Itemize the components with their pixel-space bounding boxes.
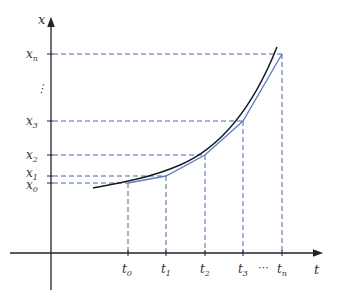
t-tick-labels: t0 t1 t2 t3 ⋯ tn [122,261,287,278]
t-axis-label: t [314,262,320,277]
t-ellipsis: ⋯ [257,261,268,274]
guide-lines [53,54,282,253]
solution-curve [93,47,277,188]
label-t0: t0 [122,262,132,278]
y-tick-labels: xn ⋮ x3 x2 x1 x0 [26,47,47,194]
label-t2: t2 [200,262,210,278]
y-tick-marks [47,54,53,183]
y-ellipsis: ⋮ [36,82,47,95]
label-tn: tn [277,262,287,278]
euler-diagram: x t xn ⋮ x3 x2 x1 x0 t0 t1 t2 t3 ⋯ tn [0,0,348,298]
label-t3: t3 [238,262,248,278]
label-x2: x2 [26,148,38,164]
x-axis-label: x [38,12,46,27]
label-x3: x3 [26,114,38,130]
label-xn: xn [26,47,38,63]
label-t1: t1 [161,262,171,278]
